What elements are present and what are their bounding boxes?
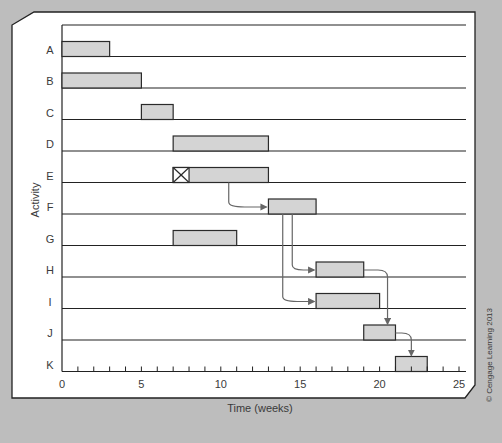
bar-f — [268, 199, 316, 214]
x-tick-label: 25 — [453, 378, 465, 390]
x-tick-label: 0 — [59, 378, 65, 390]
copyright-notice: © Cengage Learning 2013 — [485, 307, 494, 402]
bar-a — [62, 42, 110, 57]
activity-label-e: E — [46, 170, 53, 182]
activity-label-b: B — [46, 75, 53, 87]
activity-label-g: G — [46, 233, 55, 245]
x-tick-label: 5 — [138, 378, 144, 390]
activity-label-f: F — [47, 201, 54, 213]
activity-label-k: K — [46, 359, 54, 371]
bar-b — [62, 73, 141, 88]
activity-label-a: A — [46, 44, 54, 56]
x-axis-label: Time (weeks) — [227, 402, 293, 414]
x-tick-label: 20 — [373, 378, 385, 390]
bar-c — [141, 105, 173, 120]
activity-label-c: C — [46, 107, 54, 119]
bar-i — [316, 294, 380, 309]
activity-label-i: I — [48, 296, 51, 308]
activity-label-h: H — [46, 264, 54, 276]
x-tick-label: 10 — [215, 378, 227, 390]
activity-label-d: D — [46, 138, 54, 150]
x-tick-label: 15 — [294, 378, 306, 390]
bar-j — [364, 325, 396, 340]
bar-h — [316, 262, 364, 277]
y-axis-label: Activity — [29, 182, 41, 217]
bar-d — [173, 136, 268, 151]
activity-label-j: J — [47, 327, 53, 339]
gantt-chart: 0510152025 ABCDEFGHIJK Time (weeks) Acti… — [0, 0, 502, 443]
bar-g — [173, 231, 237, 246]
